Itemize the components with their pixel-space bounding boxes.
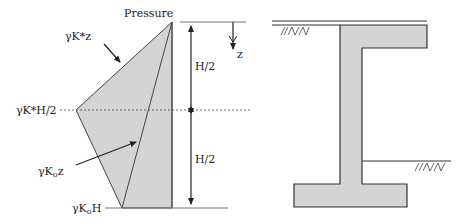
label-gk0h: γKoH (72, 202, 101, 216)
gkz-leader-arrow (104, 44, 120, 62)
pressure-area (76, 22, 172, 208)
soil-hatch-top-icon (281, 27, 309, 35)
label-gkh2: γK*H/2 (16, 104, 57, 117)
label-gkz: γK*z (65, 30, 91, 43)
soil-hatch-right-icon (415, 163, 445, 171)
label-half-bottom: H/2 (195, 153, 215, 166)
label-half-top: H/2 (195, 60, 215, 73)
label-z: z (237, 48, 243, 61)
retaining-wall-diagram (272, 21, 451, 207)
pressure-title: Pressure (124, 7, 173, 20)
wall-section (294, 25, 427, 207)
diagram-canvas: Pressure γK*z γK*H/2 γKoz γKoH H/2 H/2 z (0, 0, 467, 224)
pressure-diagram: Pressure γK*z γK*H/2 γKoz γKoH H/2 H/2 z (16, 7, 250, 216)
label-gk0z: γKoz (38, 165, 64, 179)
